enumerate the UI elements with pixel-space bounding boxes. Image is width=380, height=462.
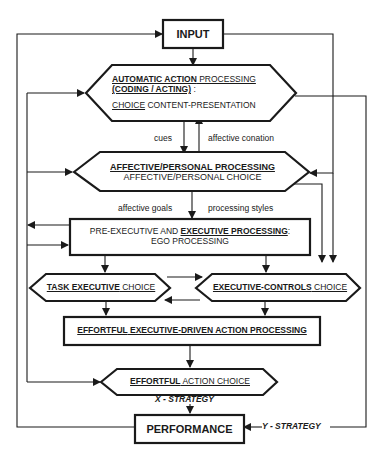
task-exec-bold: TASK EXECUTIVE bbox=[47, 282, 120, 292]
edge-label-affective-goals: affective goals bbox=[118, 203, 172, 213]
affective-personal-node: AFFECTIVE/PERSONAL PROCESSING AFFECTIVE/… bbox=[95, 155, 290, 189]
executive-line1-pre: PRE-EXECUTIVE AND bbox=[90, 226, 181, 236]
automatic-line2-suffix: : bbox=[191, 84, 196, 94]
performance-node: PERFORMANCE bbox=[135, 415, 244, 443]
executive-controls-choice-node: EXECUTIVE-CONTROLS CHOICE bbox=[206, 276, 354, 300]
edge-label-affective-conation: affective conation bbox=[208, 133, 274, 143]
effortful-action-choice-node: EFFORTFUL ACTION CHOICE bbox=[110, 370, 270, 394]
input-label: INPUT bbox=[177, 28, 210, 41]
affective-line1: AFFECTIVE/PERSONAL PROCESSING bbox=[110, 162, 275, 172]
automatic-line3-choice: CHOICE bbox=[112, 100, 145, 110]
automatic-line1-bold: AUTOMATIC ACTION bbox=[112, 74, 197, 84]
affective-line2: AFFECTIVE/PERSONAL CHOICE bbox=[123, 172, 261, 182]
edge-label-y-strategy: Y - STRATEGY bbox=[262, 421, 321, 431]
effortful-choice-rest: ACTION CHOICE bbox=[181, 376, 250, 386]
automatic-line2: (CODING / ACTING) bbox=[112, 84, 191, 94]
executive-line2: EGO PROCESSING bbox=[151, 237, 229, 247]
effortful-processing-rest: EXECUTIVE-DRIVEN ACTION PROCESSING bbox=[128, 325, 307, 335]
input-node: INPUT bbox=[163, 20, 223, 48]
executive-processing-node: PRE-EXECUTIVE AND EXECUTIVE PROCESSING: … bbox=[70, 219, 310, 255]
effortful-processing-bold: EFFORTFUL bbox=[77, 325, 127, 335]
executive-line1-suffix: : bbox=[288, 226, 290, 236]
effortful-choice-bold: EFFORTFUL bbox=[130, 376, 181, 386]
edge-label-x-strategy: X - STRATEGY bbox=[155, 394, 214, 404]
exec-controls-rest: CHOICE bbox=[312, 282, 347, 292]
task-executive-choice-node: TASK EXECUTIVE CHOICE bbox=[40, 276, 162, 300]
automatic-action-processing-node: AUTOMATIC ACTION PROCESSING (CODING / AC… bbox=[112, 68, 272, 118]
automatic-line3-rest: CONTENT-PRESENTATION bbox=[145, 100, 256, 110]
performance-label: PERFORMANCE bbox=[146, 423, 232, 436]
exec-controls-bold: EXECUTIVE-CONTROLS bbox=[213, 282, 312, 292]
executive-line1-bold: EXECUTIVE PROCESSING bbox=[181, 226, 288, 236]
automatic-line1-rest: PROCESSING bbox=[197, 74, 256, 84]
edge-label-cues: cues bbox=[154, 133, 172, 143]
effortful-processing-node: EFFORTFUL EXECUTIVE-DRIVEN ACTION PROCES… bbox=[64, 317, 320, 345]
task-exec-rest: CHOICE bbox=[120, 282, 155, 292]
edge-label-processing-styles: processing styles bbox=[208, 203, 273, 213]
